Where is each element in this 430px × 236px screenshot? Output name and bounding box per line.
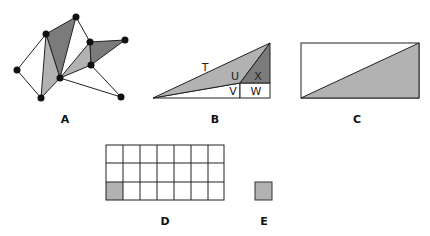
- figure-label-c: C: [353, 113, 361, 126]
- figure-label-a: A: [61, 113, 70, 126]
- dark-triangle: [90, 40, 125, 65]
- region-label-u: U: [231, 70, 239, 83]
- region-label-v: V: [229, 85, 237, 98]
- figure-c: C: [301, 43, 419, 126]
- shaded-cell: [106, 182, 123, 200]
- figure-d: D: [106, 145, 224, 228]
- geometry-figures: A T U V W X B C D: [0, 0, 430, 236]
- region-label-x: X: [254, 70, 262, 83]
- figure-b: T U V W X B: [153, 43, 270, 126]
- figure-a: A: [14, 14, 129, 127]
- region-label-t: T: [201, 61, 209, 74]
- figure-label-b: B: [211, 113, 219, 126]
- unit-square: [255, 182, 272, 200]
- figure-label-e: E: [260, 215, 268, 228]
- grid: [106, 145, 224, 200]
- figure-label-d: D: [160, 215, 169, 228]
- region-label-w: W: [251, 85, 262, 98]
- figure-e: E: [255, 182, 272, 228]
